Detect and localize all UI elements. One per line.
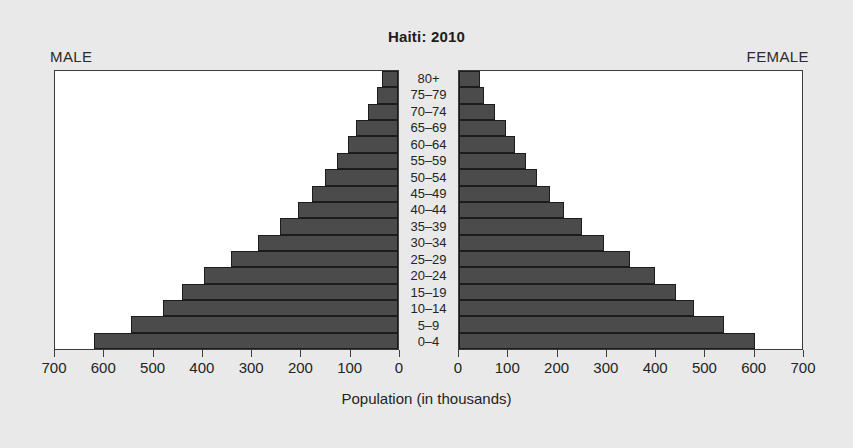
bar-row: [459, 284, 802, 300]
male-bar-65-69: [356, 120, 398, 136]
bar-row: [55, 169, 398, 185]
bar-row: [459, 267, 802, 283]
female-x-axis: 0100200300400500600700: [458, 350, 803, 384]
axis-tick: [251, 350, 252, 357]
bar-row: [459, 71, 802, 87]
female-tick-label: 400: [643, 359, 668, 376]
axis-tick: [557, 350, 558, 357]
female-bar-25-29: [459, 251, 630, 267]
bar-row: [459, 202, 802, 218]
age-group-label: 20–24: [399, 268, 458, 284]
axis-tick: [754, 350, 755, 357]
bar-row: [459, 186, 802, 202]
bar-row: [459, 104, 802, 120]
bar-row: [459, 218, 802, 234]
axis-tick: [103, 350, 104, 357]
female-panel: [458, 70, 803, 350]
axis-tick: [153, 350, 154, 357]
age-group-axis: 80+75–7970–7465–6960–6455–5950–5445–4940…: [399, 70, 458, 350]
bar-row: [459, 235, 802, 251]
female-bar-5-9: [459, 316, 724, 332]
bar-row: [55, 235, 398, 251]
male-bar-25-29: [231, 251, 398, 267]
bar-row: [459, 316, 802, 332]
axis-tick: [704, 350, 705, 357]
bar-row: [55, 153, 398, 169]
female-bar-40-44: [459, 202, 564, 218]
female-bar-70-74: [459, 104, 495, 120]
male-bar-0-4: [94, 333, 398, 349]
age-group-label: 35–39: [399, 218, 458, 234]
female-bar-75-79: [459, 87, 484, 103]
bar-row: [55, 120, 398, 136]
female-tick-label: 200: [544, 359, 569, 376]
female-tick-label: 0: [454, 359, 462, 376]
age-group-label: 50–54: [399, 169, 458, 185]
female-bar-50-54: [459, 169, 537, 185]
axis-tick: [507, 350, 508, 357]
female-bar-15-19: [459, 284, 676, 300]
female-bar-35-39: [459, 218, 582, 234]
male-bar-80+: [382, 71, 398, 87]
bar-row: [459, 153, 802, 169]
female-bar-10-14: [459, 300, 694, 316]
age-group-label: 55–59: [399, 152, 458, 168]
female-bar-55-59: [459, 153, 526, 169]
female-bar-45-49: [459, 186, 550, 202]
female-bar-30-34: [459, 235, 604, 251]
bar-row: [55, 284, 398, 300]
male-tick-label: 300: [239, 359, 264, 376]
male-tick-label: 400: [189, 359, 214, 376]
axis-tick: [300, 350, 301, 357]
female-bar-20-24: [459, 267, 655, 283]
bar-row: [55, 333, 398, 349]
male-tick-label: 0: [395, 359, 403, 376]
female-bar-0-4: [459, 333, 755, 349]
age-group-label: 70–74: [399, 103, 458, 119]
age-group-label: 5–9: [399, 317, 458, 333]
axis-tick: [803, 350, 804, 357]
x-axis-title: Population (in thousands): [0, 390, 853, 407]
male-bar-35-39: [280, 218, 398, 234]
axis-tick: [202, 350, 203, 357]
female-tick-label: 700: [790, 359, 815, 376]
bar-row: [55, 136, 398, 152]
female-bar-rows: [459, 71, 802, 349]
male-bar-40-44: [298, 202, 398, 218]
male-panel: [54, 70, 399, 350]
male-bar-50-54: [325, 169, 399, 185]
male-tick-label: 200: [288, 359, 313, 376]
axis-tick: [399, 350, 400, 357]
age-group-label: 15–19: [399, 284, 458, 300]
age-group-label: 25–29: [399, 251, 458, 267]
bar-row: [55, 202, 398, 218]
bar-row: [55, 300, 398, 316]
age-group-label: 0–4: [399, 334, 458, 350]
bar-row: [55, 104, 398, 120]
bar-row: [55, 251, 398, 267]
age-group-label: 60–64: [399, 136, 458, 152]
male-bar-60-64: [348, 136, 398, 152]
female-tick-label: 300: [593, 359, 618, 376]
axis-tick: [458, 350, 459, 357]
male-bar-rows: [55, 71, 398, 349]
female-side-label: FEMALE: [747, 48, 809, 65]
bar-row: [459, 300, 802, 316]
population-pyramid-figure: Haiti: 2010 MALE FEMALE 80+75–7970–7465–…: [0, 0, 853, 448]
bar-row: [55, 71, 398, 87]
axis-tick: [655, 350, 656, 357]
bar-row: [55, 267, 398, 283]
bar-row: [459, 87, 802, 103]
male-bar-5-9: [131, 316, 398, 332]
bar-row: [55, 186, 398, 202]
male-bar-20-24: [204, 267, 398, 283]
bar-row: [459, 120, 802, 136]
male-bar-75-79: [377, 87, 398, 103]
female-tick-label: 100: [495, 359, 520, 376]
age-group-label: 65–69: [399, 119, 458, 135]
age-group-label: 10–14: [399, 301, 458, 317]
female-bar-80+: [459, 71, 480, 87]
bar-row: [55, 87, 398, 103]
male-bar-10-14: [163, 300, 398, 316]
bar-row: [459, 333, 802, 349]
